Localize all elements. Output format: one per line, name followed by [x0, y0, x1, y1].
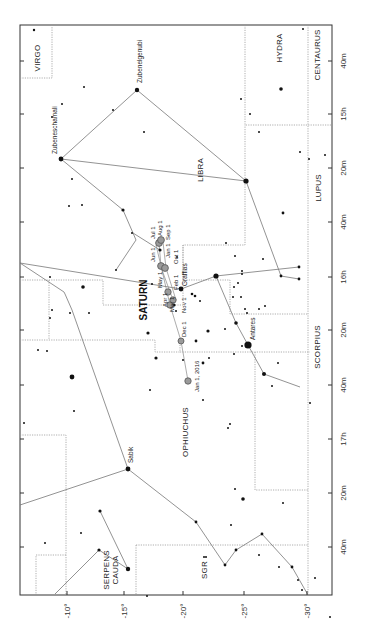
right-axis: 40m 15h 20m 40m 16h 20m 40m 17h 20m 40m: [328, 53, 348, 555]
ra-tick-20m-a: 20m: [339, 160, 348, 176]
label-oct1: Oct 1: [173, 249, 179, 264]
dec-tick-m15: -15°: [120, 604, 129, 619]
label-centaurus: CENTAURUS: [313, 30, 322, 81]
label-saturn: SATURN: [138, 280, 149, 321]
label-mar1: Mar 1: [169, 296, 175, 312]
label-scorpius: SCORPIUS: [313, 325, 322, 368]
stars: [23, 28, 331, 618]
left-axis-ticks: [20, 61, 24, 547]
ra-tick-40m-c: 40m: [339, 377, 348, 393]
ra-tick-40m-d: 40m: [339, 539, 348, 555]
dec-tick-m30: -30°: [303, 604, 312, 619]
label-virgo: VIRGO: [33, 45, 42, 72]
constellation-lines: [20, 90, 308, 595]
label-jan2016: Jan 1, 2016: [194, 360, 200, 392]
dec-tick-m20: -20°: [179, 604, 188, 619]
saturn-marker-jan2016: [185, 378, 191, 384]
label-jul1: Jul 1: [150, 226, 156, 239]
ra-tick-20m-c: 20m: [339, 485, 348, 501]
ra-tick-15h: 15h: [339, 107, 348, 120]
saturn-marker-dec: [178, 338, 184, 344]
ra-tick-16h: 16h: [339, 270, 348, 283]
label-sep1: Sep 1: [165, 224, 171, 240]
ra-tick-40m-a: 40m: [339, 53, 348, 69]
saturn-marker-jun: [162, 265, 169, 272]
label-jan1: Jan 1: [165, 243, 171, 258]
label-graffias: Graffias: [181, 263, 188, 286]
label-hydra: HYDRA: [275, 33, 284, 62]
label-sabik: Sabik: [127, 446, 134, 463]
label-dec1: Dec 1: [181, 321, 187, 337]
ra-tick-40m-b: 40m: [339, 214, 348, 230]
label-aug1: Aug 1: [157, 220, 163, 236]
constellation-labels: VIRGO HYDRA CENTAURUS LIBRA LUPUS SCORPI…: [33, 30, 323, 590]
label-libra: LIBRA: [196, 157, 205, 182]
label-antares: Antares: [249, 317, 256, 340]
star-chart: VIRGO HYDRA CENTAURUS LIBRA LUPUS SCORPI…: [0, 0, 367, 630]
label-cauda: CAUDA: [111, 555, 120, 584]
label-feb1: Feb 1: [173, 274, 179, 290]
label-nov1: Nov 1: [181, 297, 187, 313]
label-ophiuchus: OPHIUCHUS: [181, 407, 190, 457]
label-lupus: LUPUS: [314, 174, 323, 202]
label-serpens: SERPENS: [102, 550, 111, 590]
dec-tick-m10: -10°: [63, 604, 72, 619]
label-may1: May 1: [157, 271, 163, 288]
label-jun1: Jun 1: [150, 247, 156, 262]
label-sgr: SGR: [200, 561, 209, 579]
saturn-marker-aug: [158, 237, 165, 244]
label-apr1: Apr 1: [162, 292, 168, 307]
ra-tick-20m-b: 20m: [339, 322, 348, 338]
dec-tick-m25: -25°: [240, 604, 249, 619]
label-zubeneschamali: Zubeneschamali: [51, 106, 58, 154]
label-zubenelgenubi: Zubenelgenubi: [136, 40, 144, 83]
ra-tick-17h: 17h: [339, 432, 348, 445]
